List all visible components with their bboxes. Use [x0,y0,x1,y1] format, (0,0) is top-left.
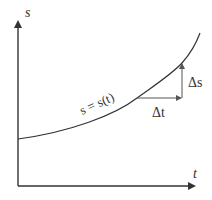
x-axis-label: t [193,166,198,181]
delta-s-label: Δs [188,75,202,90]
diagram-canvas: s t Δs Δt s = s(t) [0,0,212,200]
curve-s-of-t [18,33,200,139]
y-axis-label: s [25,5,31,20]
delta-t-label: Δt [152,105,165,120]
